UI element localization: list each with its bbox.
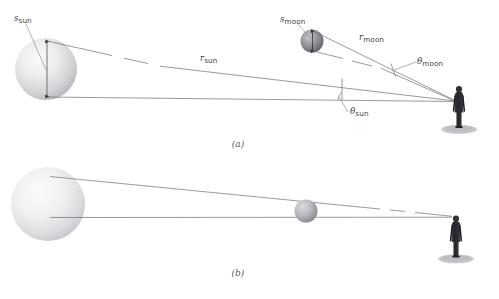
label-s-sun: ssun [14, 14, 32, 24]
label-s-moon: smoon [280, 15, 305, 25]
sun-sightline-lower [47, 97, 455, 102]
label-s-moon-subscript: moon [285, 17, 306, 26]
panel-a [15, 23, 477, 134]
panel-b [11, 167, 474, 264]
label-r-sun-subscript: sun [204, 56, 217, 65]
label-r-sun: rsun [200, 54, 218, 64]
theta-moon-arc [391, 64, 396, 77]
label-theta-moon: θmoon [417, 57, 443, 67]
observer-a [441, 86, 477, 134]
caption-panel-a: (a) [218, 139, 258, 149]
sun-body-a [15, 38, 77, 100]
observer-b [438, 216, 474, 264]
diagram-canvas [0, 0, 499, 299]
figure-root: ssun rsun θsun smoon rmoon θmoon (a) (b) [0, 0, 499, 299]
moon-body-a [301, 30, 324, 53]
caption-panel-b: (b) [218, 268, 258, 278]
label-r-moon-subscript: moon [363, 35, 384, 44]
label-theta-moon-subscript: moon [422, 59, 443, 68]
sun-sightline-upper-b [50, 177, 452, 217]
theta-sun-leader [339, 97, 348, 112]
label-s-sun-subscript: sun [19, 16, 32, 25]
label-theta-sun: θsun [350, 107, 369, 117]
theta-moon-leader [394, 62, 416, 70]
label-theta-sun-subscript: sun [355, 109, 368, 118]
moon-body-b [295, 200, 318, 223]
sun-body-b [11, 167, 85, 241]
label-r-moon: rmoon [359, 33, 384, 43]
